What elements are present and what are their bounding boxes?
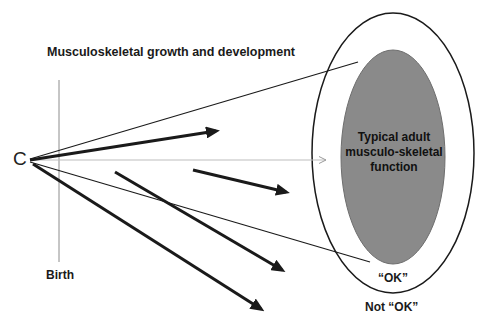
trajectory-arrow-3 <box>115 172 282 270</box>
ok-zone-label: “OK” <box>378 271 408 285</box>
upper-boundary-line <box>30 62 358 159</box>
birth-label: Birth <box>46 268 74 282</box>
trajectory-arrow-1 <box>30 131 216 160</box>
origin-label: C <box>13 148 27 170</box>
diagram-title: Musculoskeletal growth and development <box>47 45 295 59</box>
trajectory-arrow-2 <box>193 170 286 192</box>
not-ok-zone-label: Not “OK” <box>365 300 418 314</box>
center-label: Typical adult musculo-skeletal function <box>343 130 445 175</box>
